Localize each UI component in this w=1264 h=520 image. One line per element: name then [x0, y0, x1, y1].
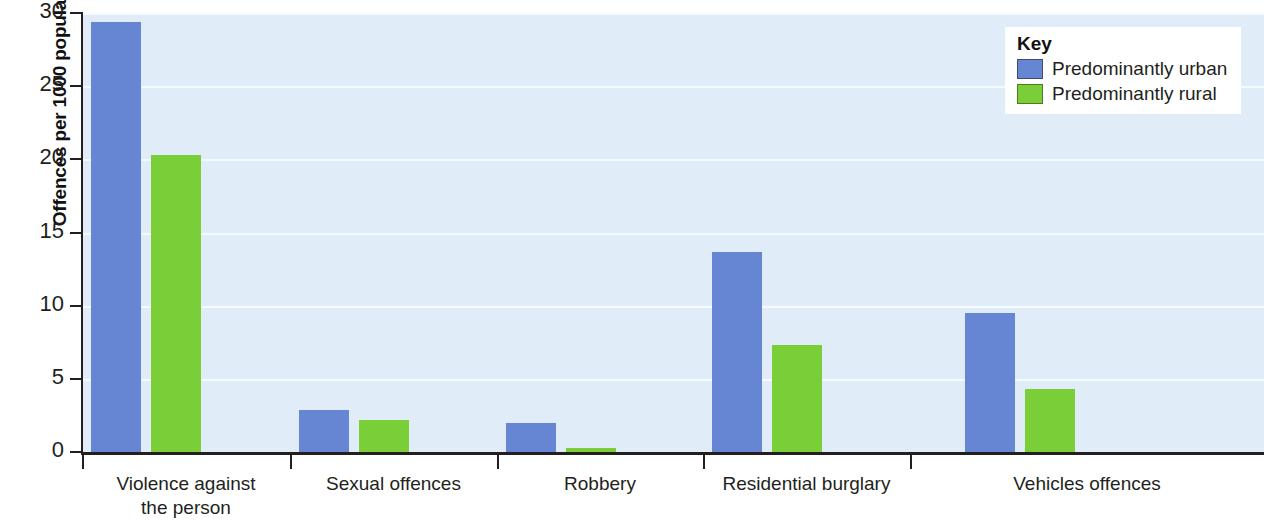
- x-axis-tick: [910, 455, 912, 469]
- gridline: [82, 233, 1264, 235]
- gridline: [82, 306, 1264, 308]
- gridline: [82, 379, 1264, 381]
- y-axis-tick-label: 20: [8, 144, 64, 170]
- y-axis-tick-label: 30: [8, 0, 64, 24]
- x-axis-tick: [82, 455, 84, 469]
- x-axis-tick: [497, 455, 499, 469]
- legend-label-urban: Predominantly urban: [1052, 58, 1227, 80]
- gridline: [82, 13, 1264, 15]
- bar-urban: [965, 313, 1015, 452]
- bar-rural: [359, 420, 409, 452]
- gridline: [82, 159, 1264, 161]
- bar-rural: [151, 155, 201, 452]
- bar-urban: [91, 22, 141, 452]
- legend-title: Key: [1017, 33, 1227, 55]
- x-axis-category-label: Vehicles offences: [947, 472, 1227, 496]
- bar-urban: [712, 252, 762, 452]
- y-axis-line: [81, 12, 83, 453]
- legend-swatch-urban-icon: [1017, 59, 1043, 79]
- x-axis-tick: [290, 455, 292, 469]
- bar-rural: [772, 345, 822, 452]
- y-axis-tick-label: 0: [8, 437, 64, 463]
- y-axis-tick: [70, 158, 81, 160]
- x-axis-category-label: Residential burglary: [667, 472, 947, 496]
- x-axis-category-label-line: Vehicles offences: [947, 472, 1227, 496]
- legend-entry-urban: Predominantly urban: [1017, 58, 1227, 80]
- y-axis-tick: [70, 232, 81, 234]
- y-axis-tick: [70, 451, 81, 453]
- x-axis-tick: [703, 455, 705, 469]
- y-axis-title: Offences per 1000 population: [49, 0, 71, 246]
- legend: Key Predominantly urban Predominantly ru…: [1005, 27, 1241, 114]
- legend-entry-rural: Predominantly rural: [1017, 83, 1227, 105]
- y-axis-tick-label: 25: [8, 71, 64, 97]
- y-axis-tick-label: 15: [8, 218, 64, 244]
- y-axis-tick: [70, 85, 81, 87]
- y-axis-tick-label: 10: [8, 291, 64, 317]
- x-axis-line: [81, 452, 1264, 455]
- x-axis-category-label-line: Residential burglary: [667, 472, 947, 496]
- legend-label-rural: Predominantly rural: [1052, 83, 1217, 105]
- y-axis-tick: [70, 378, 81, 380]
- bar-rural: [1025, 389, 1075, 452]
- bar-urban: [299, 410, 349, 452]
- bar-rural: [566, 448, 616, 452]
- x-axis-category-label-line: the person: [46, 496, 326, 520]
- bar-urban: [506, 423, 556, 452]
- legend-swatch-rural-icon: [1017, 84, 1043, 104]
- y-axis-tick: [70, 305, 81, 307]
- y-axis-tick: [70, 12, 81, 14]
- y-axis-tick-label: 5: [8, 364, 64, 390]
